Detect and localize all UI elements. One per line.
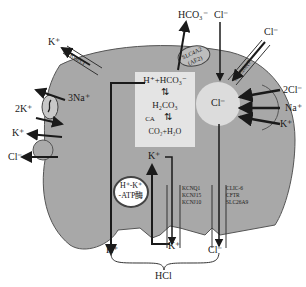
slc26a9-label: SLC26A9 [226,199,248,206]
kcnj10-label: KCNJ10 [182,199,201,206]
cl-out-label: Cl⁻ [8,151,22,162]
k-ion-label: K⁺ [48,36,60,47]
h-secreted-label: H⁺ [106,244,118,255]
kcnj15-label: KCNJ15 [182,192,201,199]
k-out-label: K⁺ [12,127,24,138]
reaction-arrows-1: ⇅ [135,87,195,97]
cl-slc-label: Cl⁻ [264,26,278,37]
k-recycle-label: K⁺ [148,150,160,161]
nkcc-na-label: Na⁺ [285,102,302,113]
cl-pool-label: Cl⁻ [211,97,225,108]
cl-secreted-label: Cl⁻ [208,244,222,255]
k-in-label: 2K⁺ [15,103,32,114]
cl-top-label: Cl⁻ [214,9,228,20]
reaction-arrows-2: ⇅ [158,112,178,122]
reaction-top: H⁺+HCO₃⁻ [135,75,195,85]
reaction-enzyme: CA [140,114,160,124]
nkcc-cl-label: 2Cl⁻ [283,84,302,95]
hcl-brace [111,253,219,270]
hco3-label: HCO₃⁻ [178,9,208,20]
cftr-label: CFTR [226,192,248,199]
cl-channel-list: CLIC-6 CFTR SLC26A9 [226,185,248,206]
clic6-label: CLIC-6 [226,185,248,192]
hcl-label: HCl [155,270,172,281]
na-out-label: 3Na⁺ [68,92,90,103]
nkcc-k-label: K⁺ [280,118,292,129]
diagram-canvas [0,0,306,287]
atpase-label-2: -ATP酶 [114,191,148,201]
atpase-label-1: H⁺-K⁺ [114,181,148,191]
k-channel-list: KCNQ1 KCNJ15 KCNJ10 [182,185,201,206]
reaction-bottom: CO₂+H₂O [135,127,195,137]
kcnq1-label: KCNQ1 [182,185,201,192]
k-secreted-label: K⁺ [168,240,180,251]
reaction-middle: H₂CO₃ [135,100,195,110]
